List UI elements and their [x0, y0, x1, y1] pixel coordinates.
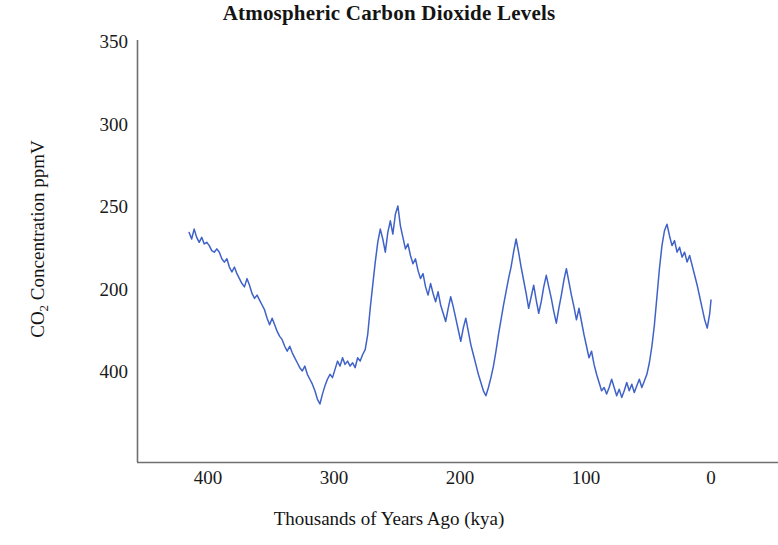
plot-area [0, 0, 778, 545]
co2-chart: Atmospheric Carbon Dioxide Levels CO2 Co… [0, 0, 778, 545]
co2-data-line [189, 206, 711, 404]
